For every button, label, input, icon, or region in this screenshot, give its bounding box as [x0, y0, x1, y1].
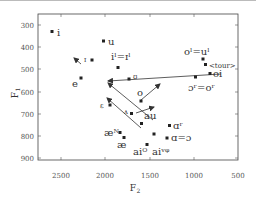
- x-tick-1000: 1000: [185, 172, 203, 180]
- y-tick-800: 800: [21, 133, 34, 141]
- label-aa: ɑ=ɔ: [171, 132, 192, 143]
- x-tick-1500: 1500: [141, 172, 159, 180]
- e-glide-arrow: [74, 58, 81, 64]
- label-U: ʊ: [133, 73, 137, 81]
- x-tick-2500: 2500: [52, 172, 70, 180]
- vowel-formant-chart: 300 400 500 600 700 800 900 2500 2000 15…: [0, 0, 256, 198]
- svg-text:F: F: [10, 92, 20, 98]
- point-eps: [109, 104, 112, 107]
- x-axis-title: F 2: [130, 183, 141, 194]
- label-u: u: [108, 36, 115, 47]
- label-au: au: [144, 110, 157, 121]
- y-tick-300: 300: [21, 22, 34, 30]
- label-aiV: aiᵛᵠ: [152, 146, 170, 157]
- point-u: [102, 40, 105, 43]
- label-aiO: aiᴼ: [133, 146, 147, 157]
- label-or: ɔʳ=oʳ: [188, 82, 215, 93]
- label-e: e: [72, 78, 78, 89]
- point-wedge: [130, 112, 133, 115]
- svg-text:2: 2: [137, 187, 141, 194]
- point-e: [80, 77, 83, 80]
- label-ae: æ: [117, 139, 126, 150]
- label-I: ɪ: [84, 56, 87, 64]
- point-il: [117, 66, 120, 69]
- y-tick-500: 500: [21, 66, 34, 74]
- point-ar: [168, 124, 171, 127]
- y-tick-400: 400: [21, 44, 34, 52]
- point-o: [140, 100, 143, 103]
- point-or: [194, 76, 197, 79]
- label-i: i: [57, 27, 60, 38]
- point-oi: [209, 72, 212, 75]
- label-aeN: æᴺ: [104, 127, 119, 138]
- point-U: [128, 78, 131, 81]
- point-I: [91, 59, 94, 62]
- label-ol: oˡ=uˡ: [184, 46, 210, 57]
- point-i: [51, 30, 54, 33]
- svg-text:F: F: [130, 183, 136, 193]
- oi-arrow: [108, 74, 221, 81]
- o-glide-arrow: [141, 84, 160, 100]
- label-wedge: ʌ: [123, 108, 128, 116]
- point-aeN: [119, 131, 122, 134]
- point-ai: [153, 133, 156, 136]
- y-tick-600: 600: [21, 89, 34, 97]
- y-tick-900: 900: [21, 155, 34, 163]
- label-ar: ɑʳ: [173, 120, 183, 131]
- label-oi: oi: [213, 68, 222, 79]
- point-tour: [204, 63, 207, 66]
- label-il: iˡ=ɪˡ: [111, 51, 131, 62]
- y-tick-700: 700: [21, 111, 34, 119]
- svg-text:1: 1: [14, 88, 21, 92]
- point-au: [140, 122, 143, 125]
- y-axis-title: F 1: [10, 88, 21, 99]
- x-tick-2000: 2000: [96, 172, 114, 180]
- label-eps: ɛ: [100, 102, 104, 110]
- point-aa: [166, 137, 169, 140]
- point-ol: [202, 58, 205, 61]
- label-o: o: [137, 87, 143, 98]
- x-tick-500: 500: [231, 172, 244, 180]
